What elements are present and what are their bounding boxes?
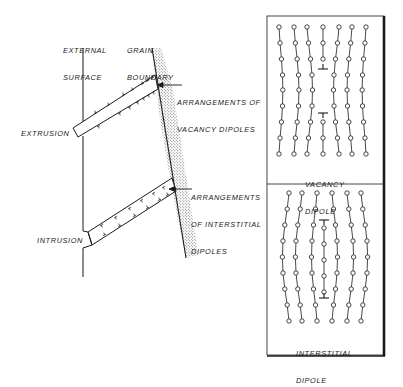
vacancy-dipole-lattice bbox=[277, 25, 368, 156]
label-line: VACANCY DIPOLES bbox=[177, 125, 261, 134]
intrusion-band bbox=[88, 178, 176, 245]
label-line: BOUNDARY bbox=[127, 73, 173, 82]
vacancy-arrangements-label: ARRANGEMENTS OF VACANCY DIPOLES bbox=[177, 80, 261, 143]
label-line: OF INTERSTITIAL bbox=[191, 220, 261, 229]
intrusion-label: INTRUSION bbox=[37, 236, 83, 245]
label-line: EXTERNAL bbox=[63, 46, 107, 55]
label-line: ARRANGEMENTS bbox=[191, 193, 261, 202]
grain-boundary-label: GRAIN BOUNDARY bbox=[127, 28, 173, 91]
extrusion-label: EXTRUSION bbox=[21, 129, 70, 138]
caption-line: VACANCY bbox=[305, 180, 345, 189]
label-line: GRAIN bbox=[127, 46, 173, 55]
caption-line: DIPOLE bbox=[305, 207, 345, 216]
label-line: DIPOLES bbox=[191, 247, 261, 256]
interstitial-arrangements-label: ARRANGEMENTS OF INTERSTITIAL DIPOLES bbox=[191, 175, 261, 265]
external-surface-label: EXTERNAL SURFACE bbox=[63, 28, 107, 91]
label-line: ARRANGEMENTS OF bbox=[177, 98, 261, 107]
label-line: SURFACE bbox=[63, 73, 107, 82]
interstitial-dipole-caption: INTERSTITIAL DIPOLE bbox=[296, 331, 352, 387]
caption-line: DIPOLE bbox=[296, 376, 352, 385]
caption-line: INTERSTITIAL bbox=[296, 349, 352, 358]
vacancy-dipole-caption: VACANCY DIPOLE bbox=[305, 162, 345, 225]
